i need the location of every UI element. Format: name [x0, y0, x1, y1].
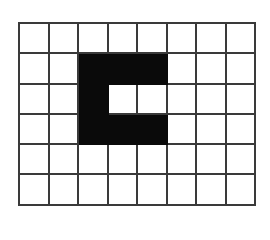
- grid-cell-filled: [79, 115, 109, 145]
- grid-cell-empty: [168, 85, 198, 115]
- grid-cell-empty: [197, 85, 227, 115]
- grid-cell-filled: [138, 115, 168, 145]
- grid-cell-empty: [109, 85, 139, 115]
- grid-cell-empty: [50, 54, 80, 84]
- grid-cell-filled: [138, 54, 168, 84]
- pixel-grid: [18, 22, 256, 206]
- grid-cell-filled: [79, 54, 109, 84]
- grid-cell-empty: [20, 54, 50, 84]
- grid-cell-empty: [227, 54, 257, 84]
- grid-cell-empty: [79, 24, 109, 54]
- grid-cell-empty: [50, 175, 80, 205]
- grid-cell-empty: [168, 24, 198, 54]
- grid-cell-empty: [138, 175, 168, 205]
- grid-cell-filled: [109, 115, 139, 145]
- grid-cell-empty: [109, 145, 139, 175]
- grid-cell-empty: [168, 175, 198, 205]
- grid-cell-empty: [227, 145, 257, 175]
- grid-cell-empty: [50, 145, 80, 175]
- grid-cell-empty: [50, 85, 80, 115]
- grid-cell-filled: [109, 54, 139, 84]
- grid-cell-empty: [138, 85, 168, 115]
- grid-cell-empty: [168, 54, 198, 84]
- grid-cell-empty: [138, 145, 168, 175]
- grid-cell-empty: [227, 85, 257, 115]
- grid-cell-empty: [20, 85, 50, 115]
- grid-cell-empty: [138, 24, 168, 54]
- grid-cell-empty: [20, 115, 50, 145]
- grid-cell-empty: [168, 145, 198, 175]
- grid-cell-empty: [227, 115, 257, 145]
- grid-cell-empty: [197, 54, 227, 84]
- grid-cell-empty: [197, 24, 227, 54]
- grid-cell-empty: [197, 175, 227, 205]
- grid-cell-empty: [109, 175, 139, 205]
- grid-cell-empty: [227, 175, 257, 205]
- grid-cell-empty: [168, 115, 198, 145]
- grid-cell-empty: [197, 145, 227, 175]
- grid-cell-empty: [79, 145, 109, 175]
- grid-cell-filled: [79, 85, 109, 115]
- grid-cell-empty: [20, 24, 50, 54]
- grid-cell-empty: [20, 145, 50, 175]
- grid-cell-empty: [50, 115, 80, 145]
- grid-cell-empty: [109, 24, 139, 54]
- grid-cell-empty: [20, 175, 50, 205]
- grid-cell-empty: [79, 175, 109, 205]
- grid-cell-empty: [50, 24, 80, 54]
- grid-cell-empty: [227, 24, 257, 54]
- grid-cell-empty: [197, 115, 227, 145]
